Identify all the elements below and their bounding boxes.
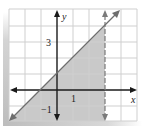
x-tick-label-1: 1	[71, 93, 76, 104]
grid-shadow-bottom	[4, 121, 142, 126]
y-axis-label: y	[61, 11, 67, 22]
grid-shadow-left	[3, 12, 9, 126]
inequality-graph: y x 3 1 −1	[0, 0, 146, 134]
x-axis-label: x	[130, 94, 136, 105]
y-tick-label-3: 3	[46, 37, 51, 48]
y-tick-label-neg1: −1	[41, 104, 52, 115]
